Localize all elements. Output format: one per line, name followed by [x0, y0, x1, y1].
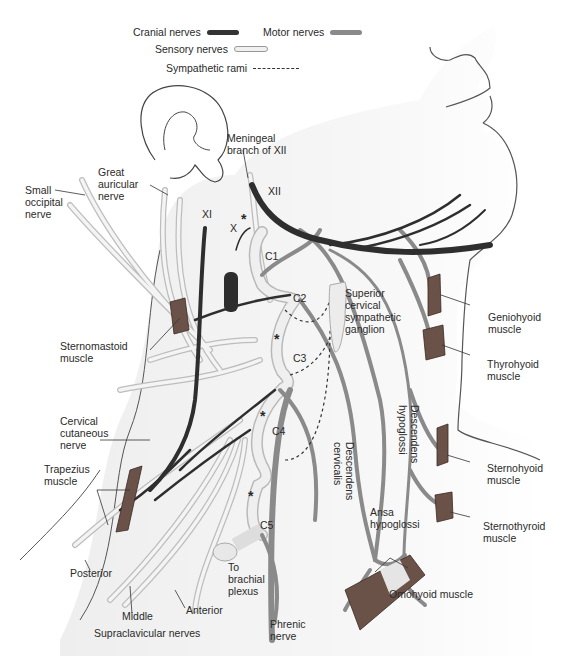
- label-cervical-cutaneous-nerve: Cervical cutaneous nerve: [60, 415, 108, 451]
- legend-cranial: Cranial nerves: [133, 26, 239, 38]
- neck-outline: [60, 25, 540, 656]
- geniohyoid-muscle-shape: [428, 274, 441, 316]
- legend-sympathetic-swatch: [253, 68, 299, 69]
- label-c2: C2: [293, 292, 306, 304]
- legend-cranial-label: Cranial nerves: [133, 26, 201, 38]
- label-to-brachial-plexus: To brachial plexus: [228, 561, 265, 597]
- label-great-auricular-nerve: Great auricular nerve: [98, 166, 138, 202]
- asterisk-c4: *: [260, 410, 265, 422]
- label-posterior: Posterior: [70, 567, 112, 579]
- label-phrenic-nerve: Phrenic nerve: [270, 618, 306, 642]
- sternothyroid-muscle-shape: [435, 492, 453, 522]
- label-ansa-hypoglossi: Ansa hypoglossi: [370, 506, 420, 530]
- label-c5: C5: [260, 519, 273, 531]
- legend-cranial-swatch: [207, 30, 239, 35]
- label-omohyoid-muscle: Omohyoid muscle: [389, 588, 473, 600]
- vagus-ganglion: [224, 272, 238, 312]
- label-descendens-hypoglossi: Descendens hypoglossi: [397, 405, 421, 463]
- sternohyoid-muscle-shape: [437, 424, 448, 466]
- asterisk-x: *: [241, 213, 246, 225]
- label-middle: Middle: [122, 610, 153, 622]
- label-meningeal-branch: Meningeal branch of XII: [227, 132, 287, 156]
- legend-sympathetic-label: Sympathetic rami: [166, 62, 247, 74]
- label-descendens-cervicalis: Descendens cervicalis: [332, 442, 356, 500]
- label-xi: XI: [202, 208, 212, 220]
- label-c1: C1: [265, 250, 278, 262]
- c5-root: [213, 543, 237, 561]
- label-thyrohyoid-muscle: Thyrohyoid muscle: [487, 358, 539, 382]
- label-sternomastoid-muscle: Sternomastoid muscle: [60, 340, 128, 364]
- label-x: X: [230, 222, 237, 234]
- legend-sensory-label: Sensory nerves: [155, 43, 228, 55]
- label-anterior: Anterior: [186, 604, 223, 616]
- label-supraclavicular-nerves: Supraclavicular nerves: [94, 627, 200, 639]
- label-c3: C3: [293, 352, 306, 364]
- legend-motor-swatch: [330, 30, 362, 35]
- label-trapezius-muscle: Trapezius muscle: [44, 463, 90, 487]
- legend-sensory: Sensory nerves: [155, 43, 268, 55]
- ear: [141, 86, 228, 182]
- legend-motor-label: Motor nerves: [263, 26, 324, 38]
- label-superior-cervical-ganglion: Superior cervical sympathetic ganglion: [345, 287, 401, 335]
- legend-sensory-swatch: [234, 46, 268, 52]
- asterisk-c3: *: [274, 333, 279, 345]
- label-c4: C4: [272, 425, 285, 437]
- label-geniohyoid-muscle: Geniohyoid muscle: [488, 311, 541, 335]
- label-sternohyoid-muscle: Sternohyoid muscle: [487, 462, 543, 486]
- label-xii: XII: [268, 185, 281, 197]
- label-sternothyroid-muscle: Sternothyroid muscle: [483, 520, 545, 544]
- thyrohyoid-muscle-shape: [423, 325, 445, 360]
- asterisk-c5: *: [248, 490, 253, 502]
- label-small-occipital-nerve: Small occipital nerve: [25, 184, 63, 220]
- legend-sympathetic: Sympathetic rami: [166, 62, 299, 74]
- legend-motor: Motor nerves: [263, 26, 362, 38]
